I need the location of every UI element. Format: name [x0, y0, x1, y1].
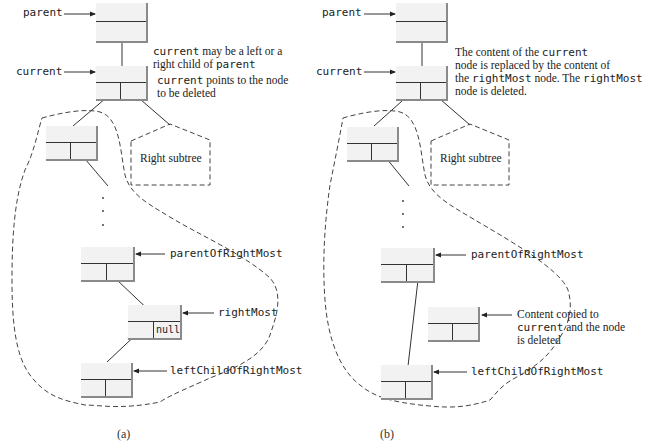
node-data-cell: [81, 247, 133, 264]
label-parent-of-rightmost-a: parentOfRightMost: [170, 247, 283, 260]
node-data-cell: [381, 248, 433, 265]
node-left-child-of-rightmost-a: [81, 363, 133, 398]
label-current-b: current: [316, 65, 362, 78]
node-data-cell: [347, 127, 397, 144]
node-deleted-rightmost-b: [428, 307, 480, 342]
node-current-b: [396, 66, 448, 101]
node-data-cell: [428, 307, 478, 324]
node-parent-of-rightmost-b: [381, 248, 435, 283]
node-data-cell: [396, 66, 446, 83]
node-left-cell: [128, 322, 154, 339]
node-right-cell-null: null: [154, 322, 180, 339]
node-data-cell: [96, 66, 146, 83]
node-right-cell: [372, 144, 397, 161]
node-left-child-of-rightmost-b: [381, 365, 433, 400]
label-current-a: current: [16, 65, 62, 78]
node-right-cell: [107, 264, 133, 281]
ellipsis-dots-b: [402, 200, 404, 228]
node-right-cell: [121, 83, 146, 100]
node-left-child-b: [347, 127, 399, 162]
node-right-cell: [453, 324, 478, 341]
node-left-cell: [396, 83, 421, 100]
node-parent-b: [396, 3, 448, 43]
node-left-cell: [347, 144, 372, 161]
note-current-child-of-parent: current may be a left or a right child o…: [153, 45, 303, 71]
node-data-cell: [381, 365, 431, 382]
node-left-child-a: [46, 126, 98, 161]
ellipsis-dots-a: [102, 197, 104, 226]
node-right-cell: [407, 265, 433, 282]
node-left-cell: [381, 382, 406, 399]
node-data-cell: [396, 3, 446, 22]
note-content-replaced: The content of the current node is repla…: [455, 46, 645, 98]
right-subtree-label-a: Right subtree: [140, 152, 202, 164]
node-right-cell: [106, 380, 131, 397]
node-left-cell: [381, 265, 407, 282]
node-rightmost-a: null: [128, 305, 182, 340]
node-data-cell: [46, 126, 96, 143]
label-left-child-of-rightmost-a: leftChildOfRightMost: [170, 364, 302, 377]
caption-a: (a): [117, 427, 130, 442]
node-right-cell: [71, 143, 96, 160]
note-content-copied: Content copied to current and the node i…: [517, 308, 637, 347]
label-left-child-of-rightmost-b: leftChildOfRightMost: [471, 365, 603, 378]
node-left-cell: [428, 324, 453, 341]
node-data-cell: [128, 305, 180, 322]
node-data-cell: [81, 363, 131, 380]
node-left-cell: [81, 380, 106, 397]
node-data-cell: [96, 3, 146, 22]
caption-b: (b): [380, 427, 394, 442]
node-current-a: [96, 66, 148, 101]
node-left-cell: [46, 143, 71, 160]
node-right-cell: [406, 382, 431, 399]
node-right-cell: [421, 83, 446, 100]
label-rightmost-a: rightMost: [218, 306, 278, 319]
node-parent-of-rightmost-a: [81, 247, 135, 282]
note-current-to-delete: current points to the node to be deleted: [157, 74, 307, 100]
label-parent-of-rightmost-b: parentOfRightMost: [471, 248, 584, 261]
label-parent-b: parent: [322, 6, 362, 19]
right-subtree-label-b: Right subtree: [440, 152, 502, 164]
node-left-cell: [96, 83, 121, 100]
label-parent-a: parent: [23, 6, 63, 19]
node-parent-a: [96, 3, 148, 43]
node-left-cell: [81, 264, 107, 281]
